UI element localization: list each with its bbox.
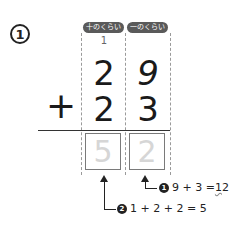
- plus-sign: +: [46, 89, 76, 123]
- arrow-line: [145, 188, 157, 189]
- step-1: 1 9 + 3 = 1 2: [159, 181, 229, 194]
- carry-mark: 1: [82, 35, 126, 46]
- answer-tens-box[interactable]: 5: [85, 133, 121, 170]
- bottom-ones-digit: 3: [126, 92, 170, 126]
- problem-number: 1: [10, 24, 30, 44]
- sum-line: [38, 130, 170, 131]
- arrow-line: [145, 181, 146, 188]
- top-ones-digit: 9: [126, 56, 170, 90]
- step-2-expression: 1 + 2 + 2 = 5: [130, 202, 207, 215]
- bottom-tens-digit: 2: [82, 92, 126, 126]
- step-1-badge: 1: [159, 183, 169, 193]
- step-1-ones-digit: 2: [222, 181, 229, 194]
- step-2: 2 1 + 2 + 2 = 5: [117, 202, 207, 215]
- arrow-line: [104, 181, 105, 209]
- top-tens-digit: 2: [82, 56, 126, 90]
- tens-place-label: 十のくらい: [83, 22, 124, 33]
- arrow-line: [104, 209, 116, 210]
- step-2-badge: 2: [117, 204, 127, 214]
- step-1-carry-digit: 1: [215, 181, 222, 194]
- answer-ones-box[interactable]: 2: [129, 133, 165, 170]
- ones-place-label: 一のくらい: [127, 22, 168, 33]
- step-1-expression: 9 + 3 =: [172, 181, 215, 194]
- column-divider: [170, 33, 171, 175]
